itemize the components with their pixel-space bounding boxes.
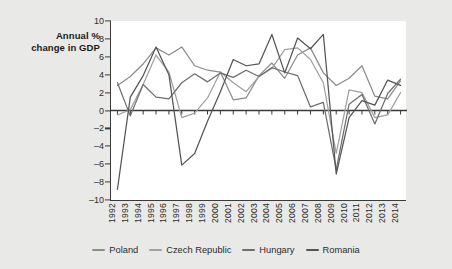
y-tick-label: –2 — [78, 123, 104, 133]
x-tick-label: 2004 — [261, 203, 271, 223]
legend-swatch-icon — [242, 249, 255, 251]
x-tick-label: 1997 — [171, 203, 181, 223]
legend-label: Hungary — [259, 245, 294, 255]
legend-item-hungary[interactable]: Hungary — [242, 245, 294, 255]
plot-area — [110, 21, 406, 200]
legend-swatch-icon — [306, 249, 319, 251]
x-tick-label: 1994 — [133, 203, 143, 223]
x-tick-label: 2013 — [377, 203, 387, 223]
x-tick-label: 2006 — [287, 203, 297, 223]
y-tick-label: 10 — [78, 16, 104, 26]
legend-label: Poland — [109, 245, 138, 255]
x-tick-label: 2009 — [326, 203, 336, 223]
x-tick-label: 2012 — [364, 203, 374, 223]
x-tick-label: 2000 — [210, 203, 220, 223]
y-tick-label: 0 — [78, 106, 104, 116]
x-tick-label: 2002 — [236, 203, 246, 223]
y-tick-label: –8 — [78, 177, 104, 187]
x-tick-label: 1993 — [120, 203, 130, 223]
series-lines — [111, 21, 407, 200]
legend-item-romania[interactable]: Romania — [306, 245, 360, 255]
x-tick-label: 1999 — [197, 203, 207, 223]
y-tick-label: 2 — [78, 88, 104, 98]
y-tick-label: 6 — [78, 52, 104, 62]
y-tick-label: –4 — [78, 141, 104, 151]
legend-swatch-icon — [149, 249, 162, 251]
x-tick-label: 2001 — [223, 203, 233, 223]
y-tick-label: 4 — [78, 70, 104, 80]
x-tick-label: 2005 — [274, 203, 284, 223]
x-tick-label: 1996 — [158, 203, 168, 223]
x-axis-line — [110, 200, 406, 201]
legend-label: Czech Republic — [166, 245, 231, 255]
x-tick-label: 2008 — [313, 203, 323, 223]
x-tick-label: 1995 — [146, 203, 156, 223]
x-tick-label: 1992 — [107, 203, 117, 223]
series-line-hungary — [117, 68, 400, 170]
chart-figure: Annual % change in GDP 1086420–2–4–6–8–1… — [0, 0, 452, 269]
legend-item-czech-republic[interactable]: Czech Republic — [149, 245, 231, 255]
x-tick-label: 1998 — [184, 203, 194, 223]
y-tick-label: 8 — [78, 34, 104, 44]
chart-legend: PolandCzech RepublicHungaryRomania — [0, 245, 452, 255]
legend-item-poland[interactable]: Poland — [92, 245, 138, 255]
x-tick-label: 2007 — [300, 203, 310, 223]
x-tick-label: 2014 — [390, 203, 400, 223]
x-tick-label: 2003 — [249, 203, 259, 223]
x-tick-label: 2010 — [339, 203, 349, 223]
y-tick-label: –6 — [78, 159, 104, 169]
legend-label: Romania — [323, 245, 360, 255]
x-tick-label: 2011 — [351, 203, 361, 222]
legend-swatch-icon — [92, 249, 105, 251]
y-tick-label: –10 — [78, 195, 104, 205]
